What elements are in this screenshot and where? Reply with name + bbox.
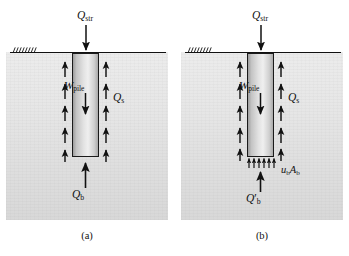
force-arrows-b — [175, 0, 349, 256]
structural-load-label-a: Qstr — [77, 10, 93, 23]
effective-base-resistance-label-b: Q′b — [246, 193, 261, 206]
caption-a: (a) — [0, 230, 174, 241]
pore-pressure-label-b: ubAb — [281, 165, 300, 177]
pile-force-diagram-figure: Qstr Wpile Qs Qb (a) — [0, 0, 349, 256]
panel-a: Qstr Wpile Qs Qb (a) — [0, 0, 174, 256]
shaft-resistance-label-a: Qs — [113, 92, 124, 105]
pore-pressure-arrows-b — [249, 159, 274, 169]
pile-weight-label-b: Wpile — [239, 80, 259, 92]
shaft-resistance-label-b: Qs — [288, 92, 299, 105]
base-resistance-label-a: Qb — [72, 189, 84, 202]
caption-b: (b) — [175, 230, 349, 241]
structural-load-label-b: Qstr — [252, 10, 268, 23]
force-arrows-a — [0, 0, 174, 256]
pile-weight-label-a: Wpile — [64, 80, 84, 92]
panel-b: Qstr Wpile Qs ubAb Q′b (b) — [175, 0, 349, 256]
